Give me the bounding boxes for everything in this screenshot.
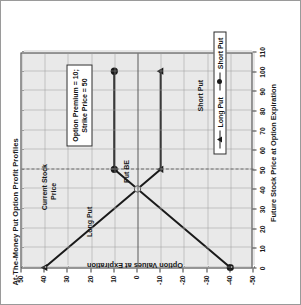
y-tick: [20, 268, 21, 272]
figure-page: At-The-Money Put Option Profit Profiles …: [0, 0, 301, 305]
x-tick-label: 60: [258, 147, 265, 154]
x-tick-label: 30: [258, 205, 265, 212]
x-tick-label: 70: [258, 127, 265, 134]
x-tick-label: 90: [258, 88, 265, 95]
legend-label: Long Put: [216, 97, 223, 127]
x-axis-label: Future Stock Price at Option Expiration: [268, 6, 277, 299]
chart-legend: Long PutShort Put: [213, 31, 226, 154]
y-gridline: [253, 53, 254, 267]
y-tick-label: 40: [40, 275, 47, 299]
x-gridline: [21, 246, 251, 247]
chart-figure: At-The-Money Put Option Profit Profiles …: [6, 6, 295, 299]
y-tick: [252, 268, 253, 272]
zero-line: [137, 53, 138, 267]
x-tick: [252, 110, 256, 111]
x-tick: [252, 51, 256, 52]
y-tick-label: -30: [202, 275, 209, 299]
x-tick: [252, 149, 256, 150]
rotated-figure-container: At-The-Money Put Option Profit Profiles …: [4, 8, 297, 297]
y-gridline: [44, 53, 45, 267]
x-tick-label: 80: [258, 107, 265, 114]
param-strike: Strike Price = 50: [80, 78, 87, 132]
x-tick: [252, 247, 256, 248]
x-tick-label: 100: [258, 66, 265, 77]
legend-label: Short Put: [216, 37, 223, 69]
x-tick: [252, 71, 256, 72]
y-tick-label: -20: [179, 275, 186, 299]
x-tick-label: 50: [258, 166, 265, 173]
x-tick: [252, 90, 256, 91]
chart-title: At-The-Money Put Option Profit Profiles: [10, 138, 19, 285]
y-tick: [113, 268, 114, 272]
x-tick: [252, 228, 256, 229]
circle-marker-icon: [217, 78, 222, 83]
x-gridline: [21, 227, 251, 228]
legend-line: [219, 130, 220, 148]
y-tick-label: 10: [109, 275, 116, 299]
y-tick-label: 30: [63, 275, 70, 299]
y-tick-label: 0: [133, 275, 140, 299]
y-tick: [159, 268, 160, 272]
y-tick-label: 50: [17, 275, 24, 299]
x-tick: [252, 130, 256, 131]
x-tick-label: 40: [258, 186, 265, 193]
y-gridline: [183, 53, 184, 267]
y-tick: [66, 268, 67, 272]
y-gridline: [207, 53, 208, 267]
y-gridline: [160, 53, 161, 267]
y-axis-label: Option Values at Expiration: [55, 261, 215, 270]
x-tick: [252, 169, 256, 170]
y-tick: [206, 268, 207, 272]
y-tick-label: -50: [249, 275, 256, 299]
param-premium: Option Premium = 10;: [71, 69, 78, 142]
csp-line1: Current Stock: [40, 164, 47, 210]
y-tick-label: -40: [225, 275, 232, 299]
y-tick: [136, 268, 137, 272]
inline-label-long-put: Long Put: [85, 206, 92, 236]
y-gridline: [114, 53, 115, 267]
triangle-marker-icon: [217, 136, 222, 142]
legend-item-short-put[interactable]: Short Put: [216, 37, 223, 90]
x-tick-label: 110: [258, 47, 265, 58]
y-gridline: [21, 53, 22, 267]
y-tick: [90, 268, 91, 272]
current-stock-price-label: Current StockPrice: [40, 172, 57, 210]
inline-label-short-put: Short Put: [196, 79, 203, 111]
y-tick: [229, 268, 230, 272]
y-tick: [182, 268, 183, 272]
x-tick-label: 10: [258, 245, 265, 252]
y-tick-label: 20: [86, 275, 93, 299]
x-tick: [252, 208, 256, 209]
csp-line2: Price: [49, 182, 56, 199]
legend-item-long-put[interactable]: Long Put: [216, 97, 223, 148]
y-gridline: [230, 53, 231, 267]
parameters-textbox: Option Premium = 10;Strike Price = 50: [66, 64, 92, 147]
legend-line: [219, 72, 220, 90]
x-tick: [252, 188, 256, 189]
y-tick: [43, 268, 44, 272]
current-stock-price-line: [21, 168, 253, 169]
x-tick-label: 0: [258, 266, 265, 270]
x-tick-label: 20: [258, 225, 265, 232]
breakeven-label: Put BE: [122, 160, 129, 183]
y-tick-label: -10: [156, 275, 163, 299]
